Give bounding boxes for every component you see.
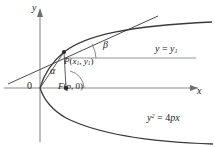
horizontal-line-rhs-subscript: 1 bbox=[175, 47, 178, 54]
point-P-marker bbox=[62, 50, 66, 54]
tangent-line bbox=[8, 16, 158, 84]
figure-canvas bbox=[0, 0, 215, 147]
angle-beta-label: β bbox=[103, 40, 108, 50]
origin-label: 0 bbox=[27, 81, 32, 91]
x-axis-label: x bbox=[197, 86, 201, 96]
horizontal-line-equation-label: y = y1 bbox=[155, 44, 178, 55]
point-F-close-paren: ) bbox=[80, 81, 83, 91]
point-F-label: F(p, 0) bbox=[58, 82, 83, 91]
horizontal-line-equals: = bbox=[159, 43, 170, 54]
point-P-label: P(x1, y1) bbox=[64, 57, 94, 67]
parabola-lower-branch bbox=[40, 88, 213, 144]
point-P-close-paren: ) bbox=[91, 56, 94, 66]
parabola-equals: = 4 bbox=[155, 112, 171, 123]
parabola-rhs: px bbox=[170, 112, 179, 123]
angle-alpha-label: α bbox=[50, 66, 55, 76]
y-axis-arrowhead bbox=[37, 8, 43, 17]
parabola-equation-label: y2 = 4px bbox=[147, 113, 180, 123]
y-axis-label: y bbox=[32, 3, 36, 13]
parabola-figure: y x 0 α β P(x1, y1) F(p, 0) y = y1 y2 = … bbox=[0, 0, 215, 147]
